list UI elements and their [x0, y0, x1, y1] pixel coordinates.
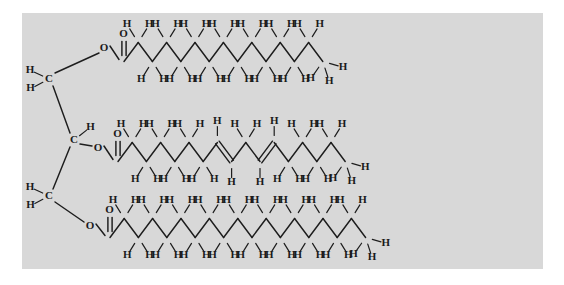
chain-bottom-chain-bond: [224, 219, 238, 238]
chain-middle-chain-bond: [246, 143, 260, 162]
chain-bottom-hydrogen: H: [237, 248, 246, 260]
chain-middle-hydrogen: H: [316, 117, 325, 129]
chain-bottom-chain-bond: [351, 219, 365, 238]
h-bond: [284, 29, 289, 37]
h-bond: [201, 205, 206, 213]
h-bond: [213, 205, 218, 213]
chain-bottom-hydrogen: H: [151, 248, 160, 260]
chain-middle-hydrogen: H: [347, 174, 356, 186]
h-bond: [199, 29, 204, 37]
chain-bottom-ester-oxygen: O: [86, 219, 95, 231]
chain-top-hydrogen: H: [293, 17, 302, 29]
chain-bottom-chain-bond: [252, 219, 266, 238]
chain-top-chain-bond: [167, 43, 181, 62]
chain-middle-chain-bond: [303, 143, 317, 162]
h-bond: [116, 205, 121, 213]
chain-bottom-chain-bond: [195, 219, 209, 238]
h-bond: [343, 205, 348, 213]
glycerol-bond-c2-c3: [53, 147, 70, 189]
h-bond: [286, 205, 291, 213]
chain-middle-hydrogen-terminal: H: [361, 160, 370, 172]
glycerol-c3-o-bond: [55, 202, 84, 222]
h-bond: [152, 129, 157, 137]
chain-middle-hydrogen: H: [301, 172, 310, 184]
h-bond: [256, 29, 261, 37]
chain-middle-chain-bond: [317, 143, 331, 162]
h-bond: [34, 72, 42, 76]
h-bond: [142, 29, 147, 37]
chain-bottom-chain-bond: [337, 219, 351, 238]
h-bond: [294, 129, 299, 137]
glycerol-c1-hydrogen: H: [26, 81, 35, 93]
chain-top-hydrogen: H: [315, 17, 324, 29]
chain-bottom-hydrogen: H: [279, 193, 288, 205]
chain-top-hydrogen: H: [279, 72, 288, 84]
chain-top-hydrogen: H: [208, 17, 217, 29]
chain-bottom-chain-bond: [280, 219, 294, 238]
chain-top-hydrogen: H: [236, 17, 245, 29]
glycerol-c3-hydrogen: H: [26, 180, 35, 192]
h-bond: [352, 163, 361, 165]
h-bond: [215, 29, 220, 37]
chain-bottom-hydrogen: H: [336, 193, 345, 205]
glycerol-c2-o-bond: [80, 144, 92, 146]
chain-top-chain-bond: [138, 43, 152, 62]
chain-bottom-hydrogen: H: [123, 248, 132, 260]
h-bond: [372, 239, 381, 241]
chain-middle-hydrogen: H: [287, 117, 296, 129]
h-bond: [323, 129, 328, 137]
chain-middle-chain-bond: [175, 143, 189, 162]
chain-bottom-chain-bond: [167, 219, 181, 238]
chain-bottom-hydrogen: H: [109, 193, 118, 205]
glycerol-carbon-1: C: [45, 72, 53, 84]
h-bond: [170, 29, 175, 37]
chain-middle-hydrogen: H: [174, 117, 183, 129]
h-bond: [144, 205, 149, 213]
chain-bottom-ester-bond: [96, 224, 105, 236]
h-bond: [229, 205, 234, 213]
chain-middle-chain-bond: [189, 143, 203, 162]
chain-top-chain-bond: [209, 43, 223, 62]
glycerol-c3-hydrogen: H: [26, 198, 35, 210]
chain-top-hydrogen: H: [306, 71, 315, 83]
glycerol-c1-o-bond: [55, 53, 99, 73]
chain-middle-chain-bond: [331, 143, 345, 162]
glycerol-c2-hydrogen: H: [86, 120, 95, 132]
h-bond: [272, 29, 277, 37]
h-bond: [158, 29, 163, 37]
h-bond: [312, 29, 317, 37]
h-bond: [187, 29, 192, 37]
h-bond: [128, 205, 133, 213]
h-bond: [355, 205, 360, 213]
chain-middle-hydrogen: H: [256, 175, 265, 187]
chain-middle-hydrogen: H: [253, 117, 262, 129]
h-bond: [124, 129, 129, 137]
chain-middle-chain-bond: [274, 143, 288, 162]
h-bond: [35, 199, 43, 203]
glycerol-carbon-2: C: [70, 133, 78, 145]
h-bond: [300, 29, 305, 37]
chain-bottom-chain-bond: [181, 219, 195, 238]
chain-bottom-chain-bond: [153, 219, 167, 238]
chain-bottom-hydrogen-terminal: H: [382, 236, 391, 248]
chain-bottom-hydrogen: H: [208, 248, 217, 260]
h-bond: [335, 129, 340, 137]
chain-middle-hydrogen: H: [117, 117, 126, 129]
glycerol-c1-hydrogen: H: [26, 63, 35, 75]
chain-bottom-hydrogen: H: [137, 193, 146, 205]
molecule-svg: CCCHHHHHOOHHHHHHHHHHHHHHHHHHHHHHHHHHHHHO…: [0, 0, 564, 285]
h-bond: [298, 205, 303, 213]
chain-middle-hydrogen: H: [213, 114, 222, 126]
chain-bottom-chain-bond: [266, 219, 280, 238]
chain-middle-hydrogen: H: [188, 172, 197, 184]
h-bond: [330, 63, 339, 65]
chain-middle-ester-oxygen: O: [94, 141, 103, 153]
chain-top-hydrogen: H: [265, 17, 274, 29]
h-bond: [258, 205, 263, 213]
chain-top-ester-oxygen: O: [100, 41, 109, 53]
chain-middle-hydrogen: H: [131, 172, 140, 184]
h-bond: [130, 29, 135, 37]
h-bond: [327, 205, 332, 213]
chain-bottom-hydrogen: H: [358, 193, 367, 205]
chain-middle-hydrogen: H: [270, 114, 279, 126]
